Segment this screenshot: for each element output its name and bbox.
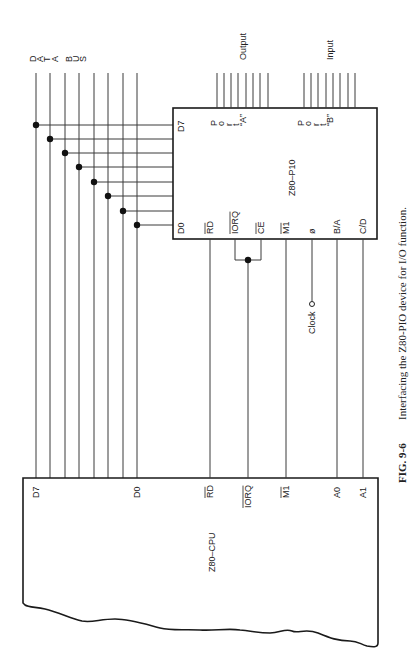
- z80-pio-chip: D7D0Z80–P10RDIORQCEM1øB/AC/DPort“A”Outpu…: [173, 32, 377, 239]
- cpu-pin-a1: A1: [358, 487, 368, 498]
- port_a-direction-label: Output: [238, 32, 248, 60]
- control-wires: [210, 239, 363, 478]
- pio-pin-d7: D7: [176, 120, 186, 132]
- junction-dot: [76, 164, 82, 170]
- cpu-pin-m1: M1: [281, 485, 291, 498]
- iorq-junction-dot: [245, 257, 251, 263]
- caption-text: Interfacing the Z80-PIO device for I/O f…: [396, 207, 408, 420]
- cpu-pin-d0: D0: [132, 486, 142, 498]
- z80-cpu-chip: Z80–CPUD7D0RDIORQM1A0A1: [23, 478, 378, 647]
- cpu-pin-iorq: IORQ: [243, 485, 253, 508]
- junction-dot: [62, 150, 68, 156]
- pio-pin-iorq: IORQ: [230, 211, 240, 234]
- caption-number: FIG. 9-6: [396, 443, 408, 483]
- cpu-box: [23, 478, 378, 647]
- junction-dot: [47, 136, 53, 142]
- port_b-label-letter: “B”: [325, 114, 335, 126]
- data-bus-label-letter: A: [50, 56, 60, 62]
- pio-pin-d0: D0: [176, 222, 186, 234]
- pio-box: [173, 108, 377, 239]
- pio-name: Z80–P10: [287, 159, 297, 196]
- pio-pin-m1: M1: [281, 221, 291, 234]
- data-bus-label-letter: S: [78, 56, 88, 62]
- pio-pin-ba: B/A: [332, 219, 342, 234]
- cpu-pin-a0: A0: [332, 487, 342, 498]
- pio-pin-ce: CE: [256, 221, 266, 234]
- junction-dot: [91, 179, 97, 185]
- data-bus: DATABUS: [28, 55, 173, 478]
- figure-caption: FIG. 9-6 Interfacing the Z80-PIO device …: [396, 207, 408, 483]
- junction-dot: [105, 193, 111, 199]
- junction-dot: [120, 208, 126, 214]
- pio-pin-: ø: [307, 228, 317, 234]
- pio-pin-cd: C/D: [358, 218, 368, 234]
- clock-terminal-icon: [310, 302, 315, 307]
- junction-dot: [33, 122, 39, 128]
- port_a-label-letter: “A”: [238, 114, 248, 126]
- cpu-name: Z80–CPU: [207, 532, 217, 572]
- port_b-direction-label: Input: [325, 39, 335, 60]
- schematic-diagram: DATABUS D7D0Z80–P10RDIORQCEM1øB/AC/DPort…: [0, 0, 420, 668]
- pio-pin-rd: RD: [205, 221, 215, 234]
- z80-pio-interface-figure: DATABUS D7D0Z80–P10RDIORQCEM1øB/AC/DPort…: [0, 0, 420, 668]
- clock-input: Clock: [307, 239, 317, 334]
- junction-dot: [134, 222, 140, 228]
- cpu-pin-rd: RD: [205, 485, 215, 498]
- clock-label: Clock: [307, 311, 317, 334]
- cpu-pin-d7: D7: [31, 486, 41, 498]
